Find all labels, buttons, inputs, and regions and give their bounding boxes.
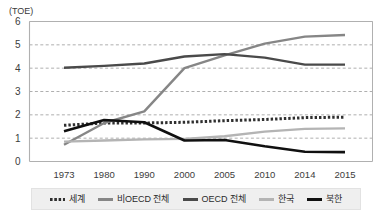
x-tick-label: 1990 [134, 169, 155, 180]
x-axis-ticks: 19731980199020002005201020142015 [0, 166, 392, 188]
legend-label: 북한 [326, 195, 342, 204]
legend-label: 세계 [69, 195, 85, 204]
plot-area-wrapper: 0123456 [0, 16, 392, 166]
y-tick-label: 4 [15, 63, 21, 74]
data-series-group [64, 35, 345, 152]
line-chart-svg: 0123456 [0, 16, 392, 166]
x-tick-label: 1980 [94, 169, 115, 180]
legend-swatch-line-icon [183, 198, 198, 201]
legend-item-korea[interactable]: 한국 [259, 195, 294, 204]
y-tick-label: 6 [15, 16, 21, 27]
legend-item-north-korea[interactable]: 북한 [307, 195, 342, 204]
legend-label: 비OECD 전체 [117, 195, 170, 204]
legend-swatch-line-icon [307, 198, 322, 201]
y-tick-label: 1 [15, 133, 21, 144]
legend-swatch-line-icon [98, 198, 113, 201]
y-tick-label: 3 [15, 86, 21, 97]
x-tick-label: 2014 [294, 169, 315, 180]
legend-label: OECD 전체 [202, 195, 247, 204]
chart-container: (TOE) 0123456 19731980199020002005201020… [0, 0, 392, 219]
series-line [64, 120, 345, 152]
legend-label: 한국 [278, 195, 294, 204]
y-axis-unit-label: (TOE) [9, 6, 33, 16]
chart-legend: 세계 비OECD 전체 OECD 전체 한국 북한 [31, 188, 361, 210]
y-tick-label: 2 [15, 109, 21, 120]
legend-swatch-dotted-icon [50, 198, 65, 201]
legend-swatch-line-icon [259, 198, 274, 201]
x-tick-label: 2010 [254, 169, 275, 180]
y-axis-ticks: 0123456 [15, 16, 21, 166]
x-tick-label: 2000 [174, 169, 195, 180]
legend-item-non-oecd[interactable]: 비OECD 전체 [98, 195, 170, 204]
legend-item-oecd[interactable]: OECD 전체 [183, 195, 247, 204]
x-tick-label: 2015 [334, 169, 355, 180]
legend-item-world[interactable]: 세계 [50, 195, 85, 204]
x-tick-label: 2005 [214, 169, 235, 180]
y-tick-label: 5 [15, 39, 21, 50]
y-tick-label: 0 [15, 156, 21, 166]
x-tick-label: 1973 [53, 169, 74, 180]
